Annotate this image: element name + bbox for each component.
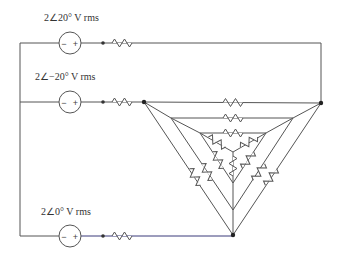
svg-text:−: − [61, 39, 66, 49]
line-resistor-1 [112, 39, 132, 47]
svg-text:−: − [61, 232, 66, 242]
voltage-source-3: − + [59, 225, 81, 247]
node-c [231, 233, 235, 237]
svg-text:+: + [73, 98, 78, 108]
node-b [319, 101, 323, 105]
voltage-source-1: − + [59, 32, 81, 54]
line-resistor-2 [112, 98, 132, 106]
resistor-network [144, 102, 321, 235]
svg-text:+: + [73, 232, 78, 242]
circuit-diagram: − + − + − + [0, 0, 338, 262]
voltage-source-2: − + [59, 91, 81, 113]
node-a [142, 100, 146, 104]
svg-text:+: + [73, 39, 78, 49]
svg-text:−: − [61, 98, 66, 108]
line-resistor-3 [112, 232, 132, 240]
